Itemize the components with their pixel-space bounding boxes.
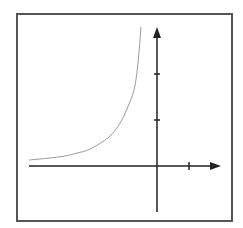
x-arrow-icon bbox=[210, 162, 221, 170]
y-axis bbox=[153, 27, 161, 212]
plot-frame bbox=[17, 14, 232, 221]
y-arrow-icon bbox=[153, 27, 161, 38]
chart bbox=[0, 0, 243, 228]
x-axis bbox=[29, 162, 221, 170]
function-curve bbox=[29, 27, 141, 160]
function-plot bbox=[0, 0, 243, 228]
